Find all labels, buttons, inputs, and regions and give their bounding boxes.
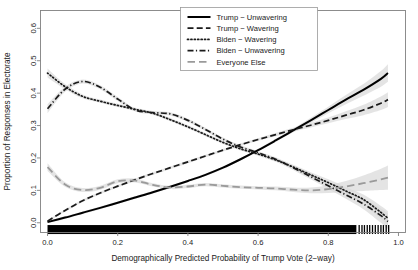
x-tick-label-3: 0.6 — [253, 238, 264, 247]
legend-label-2: Biden − Wavering — [217, 35, 277, 44]
chart-svg: 0.00.20.40.60.81.00.00.10.20.30.40.50.6 … — [0, 0, 418, 270]
x-tick-label-5: 1.0 — [393, 238, 404, 247]
x-tick-label-2: 0.4 — [183, 238, 194, 247]
y-tick-label-1: 0.1 — [29, 185, 38, 196]
x-tick-label-4: 0.8 — [323, 238, 334, 247]
x-tick-label-1: 0.2 — [112, 238, 123, 247]
y-tick-label-5: 0.5 — [29, 55, 38, 66]
x-axis-title: Demographically Predicted Probability of… — [111, 254, 334, 263]
legend-label-4: Everyone Else — [217, 58, 266, 67]
legend-label-1: Trump − Wavering — [217, 24, 279, 33]
legend: Trump − UnwaveringTrump − WaveringBiden … — [181, 8, 318, 71]
x-tick-label-0: 0.0 — [42, 238, 53, 247]
legend-label-3: Biden − Unwavering — [217, 46, 285, 55]
y-tick-label-6: 0.6 — [29, 23, 38, 34]
chart-figure: 0.00.20.40.60.81.00.00.10.20.30.40.50.6 … — [0, 0, 418, 270]
legend-label-0: Trump − Unwavering — [217, 13, 287, 22]
y-tick-label-2: 0.2 — [29, 153, 38, 164]
y-tick-label-4: 0.4 — [29, 88, 38, 99]
y-tick-label-0: 0.0 — [29, 217, 38, 228]
y-tick-label-3: 0.3 — [29, 120, 38, 131]
y-axis-title: Proportion of Responses in Electorate — [3, 52, 12, 190]
